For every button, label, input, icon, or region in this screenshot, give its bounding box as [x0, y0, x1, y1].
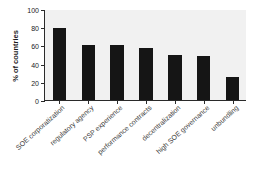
x-axis-tick-label-text: performance contracts	[96, 104, 152, 156]
y-axis-tick	[41, 10, 45, 11]
y-axis-tick-label: 40	[31, 61, 39, 68]
y-axis-tick	[41, 101, 45, 102]
x-axis-tick-label-text: SOE corporatization	[15, 104, 66, 151]
y-axis-tick-label: 80	[31, 25, 39, 32]
y-axis-tick-label: 100	[27, 7, 39, 14]
y-axis-title: % of countries	[9, 18, 23, 94]
x-axis-tick	[204, 100, 205, 104]
bar	[53, 28, 67, 100]
y-axis-tick-label: 60	[31, 43, 39, 50]
y-axis-tick	[41, 28, 45, 29]
y-axis-tick	[41, 65, 45, 66]
x-axis-tick	[233, 100, 234, 104]
y-axis-tick-label: 0	[35, 98, 39, 105]
bar-chart-figure: % of countries 020406080100 SOE corporat…	[0, 0, 257, 182]
y-axis-tick	[41, 83, 45, 84]
y-axis-tick-label: 20	[31, 79, 39, 86]
y-axis-tick	[41, 46, 45, 47]
x-axis-tick-label-text: high SOE governance	[155, 104, 211, 155]
x-axis-tick-label-text: unbundling	[209, 104, 239, 132]
